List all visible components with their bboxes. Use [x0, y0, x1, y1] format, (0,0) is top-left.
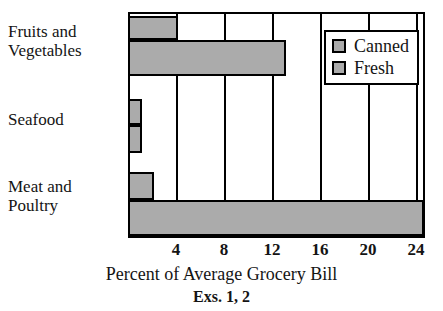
bar-fruits-and-vegetables-fresh: [128, 40, 286, 76]
legend-swatch-canned-icon: [332, 39, 346, 53]
bar-seafood-fresh: [128, 125, 142, 153]
x-tick-label-8: 8: [204, 240, 244, 260]
cropped-title-remnant: [150, 0, 330, 6]
x-tick-label-4: 4: [156, 240, 196, 260]
legend-label-fresh: Fresh: [354, 59, 394, 77]
category-label-fruits-and-vegetables: Fruits and Vegetables: [8, 22, 124, 60]
bar-seafood-canned: [128, 99, 142, 125]
legend-item-canned: Canned: [332, 35, 409, 57]
x-tick-label-24: 24: [396, 240, 436, 260]
legend-label-canned: Canned: [354, 37, 409, 55]
x-axis-title: Percent of Average Grocery Bill: [0, 264, 443, 284]
category-label-seafood: Seafood: [8, 110, 124, 129]
x-tick-label-12: 12: [252, 240, 292, 260]
figure-caption: Exs. 1, 2: [0, 288, 443, 306]
bar-meat-and-poultry-canned: [128, 172, 154, 200]
x-tick-label-16: 16: [300, 240, 340, 260]
legend-item-fresh: Fresh: [332, 57, 409, 79]
chart-legend: Canned Fresh: [324, 30, 419, 85]
bar-fruits-and-vegetables-canned: [128, 16, 178, 40]
legend-swatch-fresh-icon: [332, 61, 346, 75]
category-label-meat-and-poultry: Meat and Poultry: [8, 177, 124, 215]
bar-meat-and-poultry-fresh: [128, 200, 424, 236]
plot-area: Canned Fresh: [128, 12, 425, 238]
chart-figure: Fruits and Vegetables Seafood Meat and P…: [0, 0, 443, 311]
x-tick-label-20: 20: [348, 240, 388, 260]
